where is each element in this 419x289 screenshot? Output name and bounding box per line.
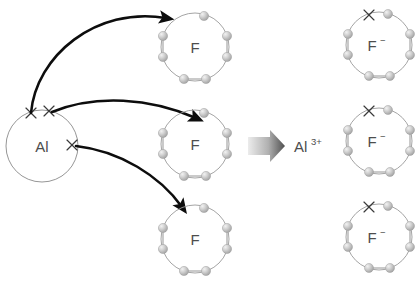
aluminium-ion-charge: 3+ [311,136,322,147]
fluorine-symbol-label-top: F [190,39,199,56]
fluoride-shell-ring-top [346,12,412,78]
reaction-arrow-shape [248,130,285,162]
fluoride-shell-ring-middle [346,108,412,174]
fluoride-ion-bottom: F − [344,202,415,273]
electron-transfer-arrows [31,16,196,207]
fluoride-electrons-middle [344,106,415,177]
electron-transfer-arrow-2 [52,101,196,118]
fluorine-atom-middle: F [158,108,231,180]
diagram-canvas: Al [0,0,419,289]
fluoride-symbol-label-top: F [367,37,376,54]
aluminium-ion-symbol: Al [294,138,307,155]
fluoride-symbol-label-bottom: F [367,229,376,246]
aluminium-ion: Al 3+ [294,136,322,155]
fluorine-atom-bottom: F [158,203,231,275]
aluminium-atom: Al [6,106,78,182]
fluoride-ion-middle: F − [344,106,415,177]
fluoride-electrons-top [344,10,415,81]
reaction-arrow [248,130,285,162]
fluoride-charge-label-top: − [380,35,386,46]
fluorine-atom-top: F [158,11,231,83]
fluoride-ion-top: F − [344,10,415,81]
fluoride-charge-label-bottom: − [380,227,386,238]
ionic-bonding-diagram: Al [0,0,419,289]
electron-transfer-arrow-1 [31,16,166,113]
fluoride-electrons-bottom [344,202,415,273]
fluoride-shell-ring-bottom [346,204,412,270]
aluminium-symbol-label: Al [35,138,48,155]
fluorine-symbol-label-bottom: F [190,231,199,248]
fluoride-charge-label-middle: − [380,131,386,142]
fluorine-symbol-label-middle: F [190,136,199,153]
fluoride-symbol-label-middle: F [367,133,376,150]
